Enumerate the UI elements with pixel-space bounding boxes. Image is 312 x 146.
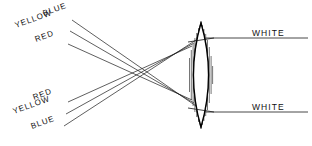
blue-ray-bottom — [64, 40, 196, 126]
incoming-top-labels: BLUE YELLOW RED — [14, 1, 68, 44]
incoming-rays-bottom-group — [64, 40, 196, 126]
label-yellow-bottom: YELLOW — [12, 94, 51, 116]
label-red-top: RED — [34, 29, 55, 44]
optics-svg-canvas: BLUE YELLOW RED RED YELLOW BLUE WHITE WH… — [0, 0, 312, 146]
label-blue-bottom: BLUE — [30, 114, 56, 131]
lens-outline-stroke-overlay — [194, 23, 209, 127]
optics-diagram: BLUE YELLOW RED RED YELLOW BLUE WHITE WH… — [0, 0, 312, 146]
outgoing-labels: WHITE WHITE — [252, 28, 285, 112]
label-white-top: WHITE — [252, 28, 285, 38]
incoming-bottom-labels: RED YELLOW BLUE — [12, 87, 56, 131]
red-ray-top — [68, 44, 192, 100]
lens-body — [188, 23, 214, 127]
label-white-bottom: WHITE — [252, 102, 285, 112]
outgoing-rays-group — [206, 38, 308, 112]
label-yellow-top: YELLOW — [14, 8, 53, 30]
